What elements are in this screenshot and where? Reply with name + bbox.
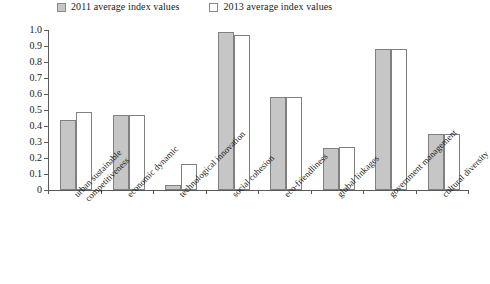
legend-item-2013: 2013 average index values xyxy=(209,2,332,12)
bar-group xyxy=(60,30,92,190)
bar xyxy=(218,32,234,190)
y-tick-label-0.1: 0.1 xyxy=(30,169,43,179)
bar-group xyxy=(323,30,355,190)
y-tick-label-0.8: 0.8 xyxy=(30,57,43,67)
legend-item-2011: 2011 average index values xyxy=(57,2,179,12)
x-axis-category-labels: urban sustainablecompetitivenesseconomic… xyxy=(48,192,468,284)
legend-swatch-2013 xyxy=(209,3,218,12)
bar xyxy=(60,120,76,190)
legend-label-2011: 2011 average index values xyxy=(71,2,179,12)
y-tick-label-1.0: 1.0 xyxy=(30,25,43,35)
y-tick-label-0.6: 0.6 xyxy=(30,89,43,99)
legend-swatch-2011 xyxy=(57,3,66,12)
bar xyxy=(234,35,250,190)
bar-group xyxy=(270,30,302,190)
y-tick-label-0.5: 0.5 xyxy=(30,105,43,115)
bar xyxy=(375,49,391,190)
y-tick-label-0: 0 xyxy=(37,185,42,195)
y-tick-label-0.9: 0.9 xyxy=(30,41,43,51)
y-tick-label-0.4: 0.4 xyxy=(30,121,43,131)
bar-group xyxy=(428,30,460,190)
chart-legend: 2011 average index values 2013 average i… xyxy=(57,2,362,12)
bar xyxy=(270,97,286,190)
y-tick-label-0.2: 0.2 xyxy=(30,153,43,163)
y-tick-label-0.3: 0.3 xyxy=(30,137,43,147)
y-tick-label-0.7: 0.7 xyxy=(30,73,43,83)
bar xyxy=(391,49,407,190)
bar-group xyxy=(375,30,407,190)
legend-label-2013: 2013 average index values xyxy=(223,2,332,12)
x-tick xyxy=(468,190,469,194)
bar-group xyxy=(218,30,250,190)
bar-group xyxy=(165,30,197,190)
